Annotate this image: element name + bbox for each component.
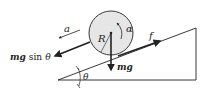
alpha-label: α xyxy=(126,23,133,34)
weight-label: mg xyxy=(117,62,133,72)
theta-angle-marker xyxy=(76,66,80,88)
weight-component-arrow-icon xyxy=(55,42,90,56)
acceleration-label: a xyxy=(64,23,70,34)
friction-label: f xyxy=(148,30,155,41)
free-body-diagram: a α R f mg mgsinθ θ xyxy=(0,0,207,96)
weight-component-label: mgsinθ xyxy=(10,52,51,62)
radius-label: R xyxy=(97,33,106,44)
diagram-canvas: a α R f mg mgsinθ θ xyxy=(0,0,207,96)
incline-angle-label: θ xyxy=(83,72,89,82)
